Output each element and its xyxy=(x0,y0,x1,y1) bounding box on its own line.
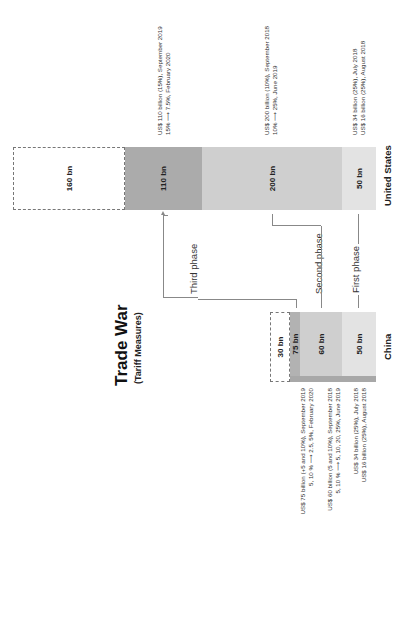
us-first-note: US$ 34 billion (25%), July 2018 US$ 16 b… xyxy=(351,41,367,135)
chart-subtitle: (Tariff Measures) xyxy=(133,312,143,384)
us-third-value: 110 bn xyxy=(159,166,168,191)
china-first-value: 50 bn xyxy=(355,334,364,355)
china-second-phase-segment: 60 bn xyxy=(300,312,342,376)
us-second-value: 200 bn xyxy=(268,166,277,191)
second-phase-line-mid xyxy=(272,225,321,226)
third-phase-line-bottom xyxy=(296,299,297,308)
china-pending-label: 30 bn xyxy=(276,337,285,358)
third-phase-line-top xyxy=(163,215,164,298)
china-first-note: US$ 34 billion (25%), July 2018 US$ 16 b… xyxy=(352,388,368,482)
third-phase-line-vertical xyxy=(198,299,296,300)
us-pending-segment: 160 bn xyxy=(13,147,125,210)
first-phase-label: First phase xyxy=(350,244,361,295)
third-phase-line-mid xyxy=(163,297,198,298)
us-first-value: 50 bn xyxy=(355,168,364,189)
us-second-phase-segment: 200 bn xyxy=(202,147,342,210)
china-third-note: US$ 75 billion (+5 and 10%), September 2… xyxy=(299,388,315,514)
third-phase-label: Third phase xyxy=(188,242,199,296)
china-country-label: China xyxy=(382,334,393,360)
china-bottom-strip xyxy=(290,376,376,382)
second-phase-label: Second phase xyxy=(313,231,324,296)
us-pending-label: 160 bn xyxy=(65,166,74,191)
china-third-phase-segment: 75 bn xyxy=(290,312,300,376)
china-first-phase-segment: 50 bn xyxy=(342,312,376,376)
us-third-note: US$ 110 billion (15%), September 2019 15… xyxy=(156,26,172,135)
china-third-value: 75 bn xyxy=(291,334,300,355)
china-pending-segment: 30 bn xyxy=(270,312,290,382)
china-second-value: 60 bn xyxy=(317,334,326,355)
chart-canvas: Trade War (Tariff Measures) 160 bn 110 b… xyxy=(0,0,406,618)
second-phase-line-bottom xyxy=(321,226,322,308)
us-first-phase-segment: 50 bn xyxy=(342,147,376,210)
us-second-note: US$ 200 billion (10%), September 2018 10… xyxy=(263,26,279,135)
us-third-phase-segment: 110 bn xyxy=(125,147,202,210)
china-second-note: US$ 60 billion (5 and 10%), September 20… xyxy=(326,388,342,511)
us-country-label: United States xyxy=(382,145,393,206)
chart-title: Trade War xyxy=(112,304,132,386)
